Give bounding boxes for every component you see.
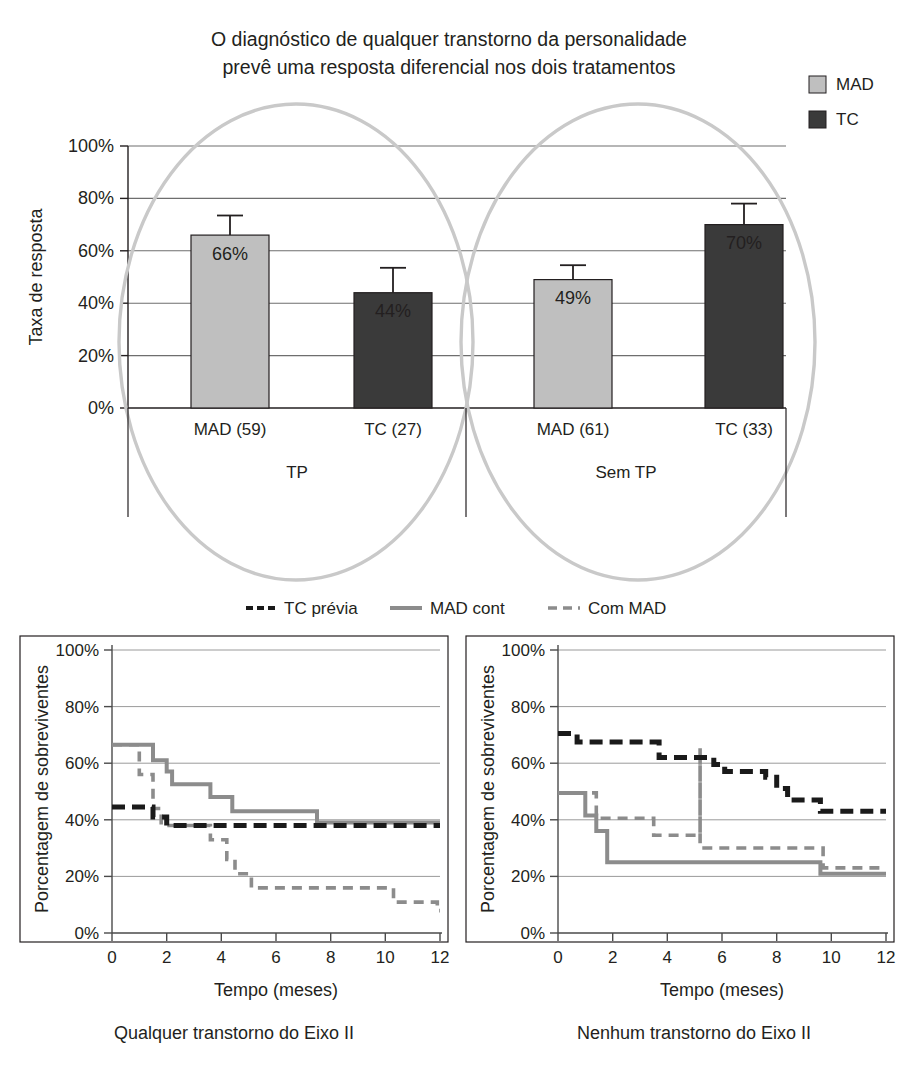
- figure-title-line2: prevê uma resposta diferencial nos dois …: [222, 56, 675, 78]
- survival-left-ylabel: Porcentagem de sobreviventes: [32, 665, 52, 913]
- survival-right-xlabel: Tempo (meses): [660, 980, 784, 1000]
- bar-yticklabel-0: 0%: [88, 398, 114, 418]
- bar-group-label-sem-tp: Sem TP: [595, 463, 656, 482]
- bar-category-label-mad-59: MAD (59): [194, 420, 267, 439]
- sr-yticklabel-60: 60%: [511, 754, 545, 773]
- bar-value-label-mad-semtp: 49%: [555, 288, 591, 308]
- bar-value-label-tc-tp: 44%: [375, 301, 411, 321]
- bar-category-label-tc-27: TC (27): [364, 420, 422, 439]
- curve-mad-cont-left-path: [112, 745, 440, 823]
- sl-yticklabel-20: 20%: [65, 867, 99, 886]
- sl-yticklabel-40: 40%: [65, 811, 99, 830]
- legend-swatch-mad: [809, 76, 826, 93]
- survival-left-xlabel: Tempo (meses): [214, 980, 338, 1000]
- sl-xticklabel-6: 6: [271, 948, 280, 967]
- bar-group-label-tp: TP: [286, 463, 308, 482]
- curve-mad-cont-right: [558, 793, 886, 874]
- sr-yticklabel-20: 20%: [511, 867, 545, 886]
- sr-yticklabel-0: 0%: [520, 924, 545, 943]
- bar-yticklabel-20: 20%: [78, 346, 114, 366]
- sr-xticklabel-8: 8: [772, 948, 781, 967]
- survival-right-ylabel: Porcentagem de sobreviventes: [478, 665, 498, 913]
- sr-xticklabel-0: 0: [553, 948, 562, 967]
- survival-chart-left: Porcentagem de sobreviventes 100% 80% 60…: [20, 636, 449, 1043]
- sl-xticklabel-4: 4: [217, 948, 226, 967]
- survival-right-frame: [466, 636, 894, 942]
- bar-group-tc-27: 44%: [354, 268, 432, 408]
- bar-value-label-mad-tp: 66%: [212, 244, 248, 264]
- bar-category-label-tc-33: TC (33): [715, 420, 773, 439]
- sr-yticklabel-100: 100%: [502, 641, 545, 660]
- bar-yticklabel-40: 40%: [78, 293, 114, 313]
- bar-chart-ylabel: Taxa de resposta: [26, 207, 46, 345]
- bar-category-label-mad-61: MAD (61): [537, 420, 610, 439]
- sl-yticklabel-100: 100%: [56, 641, 99, 660]
- figure-root: O diagnóstico de qualquer transtorno da …: [0, 0, 916, 1067]
- bar-yticklabel-60: 60%: [78, 241, 114, 261]
- sr-yticklabel-80: 80%: [511, 698, 545, 717]
- sr-xticklabel-6: 6: [717, 948, 726, 967]
- sl-xticklabel-0: 0: [107, 948, 116, 967]
- sl-xticklabel-2: 2: [162, 948, 171, 967]
- bar-group-mad-61: 49%: [534, 265, 612, 408]
- bar-legend: MAD TC: [809, 75, 874, 129]
- legend-label-com-mad: Com MAD: [588, 599, 666, 618]
- legend-label-mad: MAD: [836, 75, 874, 94]
- sl-yticklabel-80: 80%: [65, 698, 99, 717]
- legend-label-mad-cont: MAD cont: [430, 599, 505, 618]
- survival-left-caption: Qualquer transtorno do Eixo II: [114, 1023, 354, 1043]
- sl-xticklabel-12: 12: [431, 948, 450, 967]
- bar-yticklabel-80: 80%: [78, 188, 114, 208]
- curve-tc-previa-right-path: [558, 734, 886, 812]
- sr-xticklabel-10: 10: [822, 948, 841, 967]
- sr-xticklabel-4: 4: [663, 948, 672, 967]
- survival-right-caption: Nenhum transtorno do Eixo II: [577, 1023, 811, 1043]
- bar-chart: Taxa de resposta 100% 80% 60% 40% 20% 0%: [26, 104, 815, 580]
- survival-chart-right: Porcentagem de sobreviventes 100% 80% 60…: [466, 636, 895, 1043]
- sl-yticklabel-0: 0%: [74, 924, 99, 943]
- sl-xticklabel-10: 10: [376, 948, 395, 967]
- survival-left-frame: [20, 636, 448, 942]
- legend-swatch-tc: [809, 111, 826, 128]
- legend-label-tc: TC: [836, 110, 859, 129]
- sr-xticklabel-12: 12: [877, 948, 896, 967]
- figure-svg: O diagnóstico de qualquer transtorno da …: [0, 0, 916, 1067]
- bar-group-tc-33: 70%: [705, 204, 783, 408]
- sr-xticklabel-2: 2: [608, 948, 617, 967]
- sl-yticklabel-60: 60%: [65, 754, 99, 773]
- survival-legend: TC prévia MAD cont Com MAD: [246, 599, 666, 618]
- bar-value-label-tc-semtp: 70%: [726, 233, 762, 253]
- bar-group-mad-59: 66%: [191, 216, 269, 409]
- figure-title-line1: O diagnóstico de qualquer transtorno da …: [211, 28, 687, 50]
- sr-yticklabel-40: 40%: [511, 811, 545, 830]
- legend-label-tc-previa: TC prévia: [284, 599, 358, 618]
- sl-xticklabel-8: 8: [326, 948, 335, 967]
- bar-yticklabel-100: 100%: [68, 136, 114, 156]
